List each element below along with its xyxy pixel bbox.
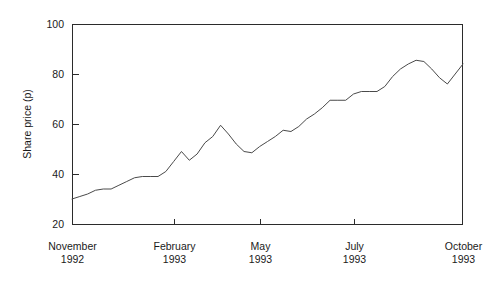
y-tick-label: 80	[52, 68, 64, 80]
y-tick-label: 100	[46, 18, 64, 30]
y-tick-label: 20	[52, 218, 64, 230]
share-price-line-chart: 20406080100 November1992February1993May1…	[0, 0, 493, 281]
y-axis-ticks	[73, 75, 79, 175]
x-tick-label-year: 1992	[61, 253, 85, 265]
y-tick-label: 40	[52, 168, 64, 180]
x-axis-ticks	[175, 219, 355, 225]
y-axis-tick-labels: 20406080100	[46, 18, 64, 230]
x-tick-label-year: 1993	[163, 253, 187, 265]
x-tick-label-year: 1993	[249, 253, 273, 265]
y-tick-label: 60	[52, 118, 64, 130]
x-tick-label-month: October	[445, 240, 483, 252]
x-tick-label-month: February	[153, 240, 196, 252]
x-tick-label-year: 1993	[452, 253, 476, 265]
x-tick-label-month: May	[251, 240, 272, 252]
y-axis-title: Share price (p)	[21, 89, 33, 158]
x-tick-label-month: November	[48, 240, 97, 252]
x-tick-label-month: July	[345, 240, 364, 252]
share-price-line	[72, 60, 463, 199]
x-tick-label-year: 1993	[343, 253, 367, 265]
x-axis-tick-labels: November1992February1993May1993July1993O…	[48, 240, 482, 265]
axes-frame	[73, 25, 463, 225]
chart-figure: 20406080100 November1992February1993May1…	[0, 0, 493, 281]
data-series-group	[72, 60, 463, 199]
